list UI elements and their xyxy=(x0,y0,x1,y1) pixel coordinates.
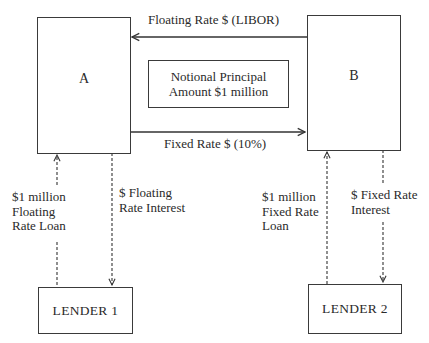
notional-principal-box: Notional Principal Amount $1 million xyxy=(148,60,289,108)
lender2-box: LENDER 2 xyxy=(308,284,402,334)
lender2-loan-line1: $1 million xyxy=(262,190,319,205)
lender1-loan-line1: $1 million xyxy=(12,190,66,205)
notional-line2: Amount $1 million xyxy=(169,84,269,99)
lender2-loan-line3: Loan xyxy=(262,219,319,234)
party-a-label: A xyxy=(79,71,89,87)
party-b-box: B xyxy=(307,15,401,151)
lender1-box: LENDER 1 xyxy=(38,287,133,334)
party-a-box: A xyxy=(37,17,131,154)
floating-rate-label: Floating Rate $ (LIBOR) xyxy=(148,13,279,28)
lender2-interest-label: $ Fixed Rate Interest xyxy=(351,188,417,217)
lender2-loan-label: $1 million Fixed Rate Loan xyxy=(262,190,319,234)
lender2-interest-line2: Interest xyxy=(351,203,417,218)
lender1-interest-line2: Rate Interest xyxy=(119,201,185,216)
lender1-interest-line1: $ Floating xyxy=(119,186,185,201)
lender2-loan-line2: Fixed Rate xyxy=(262,205,319,220)
lender1-loan-label: $1 million Floating Rate Loan xyxy=(12,190,66,234)
lender2-interest-line1: $ Fixed Rate xyxy=(351,188,417,203)
lender1-interest-label: $ Floating Rate Interest xyxy=(119,186,185,215)
lender1-label: LENDER 1 xyxy=(53,303,119,319)
fixed-rate-label: Fixed Rate $ (10%) xyxy=(164,137,266,152)
lender1-loan-line2: Floating xyxy=(12,205,66,220)
party-b-label: B xyxy=(349,68,358,84)
lender1-loan-line3: Rate Loan xyxy=(12,219,66,234)
notional-line1: Notional Principal xyxy=(171,69,267,84)
lender2-label: LENDER 2 xyxy=(322,301,388,317)
